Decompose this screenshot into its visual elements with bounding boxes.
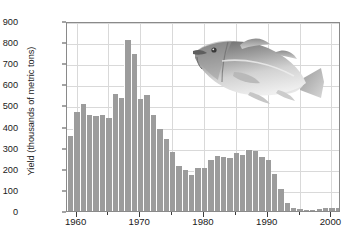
- x-axis-tick-label: 1960: [53, 216, 99, 227]
- plot-area: [66, 22, 340, 212]
- x-axis-tick-mark: [267, 212, 268, 217]
- x-axis-tick-mark-minor: [299, 212, 300, 215]
- y-axis-tick-label: 600: [0, 80, 18, 90]
- y-axis-tick-label: 700: [0, 59, 18, 69]
- bar-series: [67, 23, 339, 211]
- x-axis-tick-mark: [76, 212, 77, 217]
- x-axis-tick-label: 1980: [180, 216, 226, 227]
- x-axis-tick-mark: [203, 212, 204, 217]
- x-axis-tick-label: 1990: [244, 216, 290, 227]
- y-axis-tick-label: 900: [0, 17, 18, 27]
- x-axis-tick-mark-minor: [171, 212, 172, 215]
- y-axis-tick-label: 100: [0, 186, 18, 196]
- y-axis-tick-label: 500: [0, 101, 18, 111]
- x-axis-tick-mark: [139, 212, 140, 217]
- y-axis-tick-label: 800: [0, 38, 18, 48]
- x-axis-tick-mark: [330, 212, 331, 217]
- cod-yield-bar-chart: Yield (thousands of metric tons) 0100200…: [0, 0, 358, 245]
- y-axis-tick-label: 0: [0, 207, 18, 217]
- x-axis-tick-label: 1970: [116, 216, 162, 227]
- x-axis-tick-mark-minor: [235, 212, 236, 215]
- y-axis-label: Yield (thousands of metric tons): [26, 16, 36, 206]
- y-axis-tick-label: 400: [0, 123, 18, 133]
- bar: [335, 208, 339, 211]
- y-axis-tick-label: 200: [0, 165, 18, 175]
- x-axis-tick-mark-minor: [107, 212, 108, 215]
- x-axis-tick-label: 2000: [307, 216, 353, 227]
- y-axis-tick-label: 300: [0, 144, 18, 154]
